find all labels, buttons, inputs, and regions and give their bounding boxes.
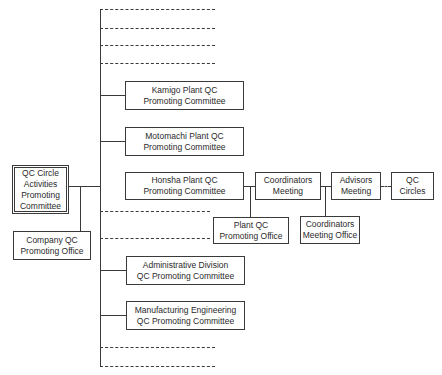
root-committee-box: QC Circle Activities Promoting Committee	[12, 165, 69, 214]
dashed-branch	[100, 238, 210, 239]
root-committee-label: QC Circle Activities Promoting Committee	[20, 168, 61, 212]
committee-label: Administrative Division QC Promoting Com…	[137, 260, 234, 282]
coordinators-to-advisors-line	[321, 186, 331, 187]
branch-line	[100, 270, 126, 271]
branch-line	[100, 315, 126, 316]
plant-office-box: Plant QC Promoting Office	[213, 217, 289, 244]
coordinators-office-connector	[325, 186, 326, 216]
staff-connector	[80, 186, 81, 231]
advisors-meeting-box: Advisors Meeting	[331, 172, 381, 200]
motomachi-committee-box: Motomachi Plant QC Promoting Committee	[125, 127, 244, 156]
dashed-branch	[100, 63, 215, 64]
admin-committee-box: Administrative Division QC Promoting Com…	[126, 256, 245, 285]
branch-line	[100, 141, 125, 142]
committee-label: Honsha Plant QC Promoting Committee	[143, 175, 225, 197]
committee-label: Kamigo Plant QC Promoting Committee	[143, 85, 225, 107]
chain-label: Coordinators Meeting	[264, 175, 313, 197]
office-label: Plant QC Promoting Office	[219, 220, 282, 242]
company-office-box: Company QC Promoting Office	[13, 231, 91, 260]
honsha-committee-box: Honsha Plant QC Promoting Committee	[125, 172, 244, 200]
plant-office-connector	[250, 186, 251, 217]
committee-label: Motomachi Plant QC Promoting Committee	[143, 131, 225, 153]
branch-line	[100, 95, 125, 96]
chain-label: Advisors Meeting	[340, 175, 373, 197]
committee-label: Manufacturing Engineering QC Promoting C…	[135, 305, 237, 327]
dashed-branch	[100, 211, 210, 212]
dashed-branch	[100, 45, 215, 46]
kamigo-committee-box: Kamigo Plant QC Promoting Committee	[125, 81, 244, 110]
dashed-branch	[100, 366, 215, 367]
root-connector	[69, 186, 100, 187]
qc-circles-box: QC Circles	[391, 172, 434, 200]
dashed-branch	[100, 347, 215, 348]
mfg-eng-committee-box: Manufacturing Engineering QC Promoting C…	[126, 301, 245, 330]
dashed-branch	[100, 28, 215, 29]
coordinators-meeting-box: Coordinators Meeting	[255, 172, 321, 200]
coordinators-office-box: Coordinators Meeting Office	[300, 216, 360, 244]
chain-label: QC Circles	[400, 175, 426, 197]
office-label: Coordinators Meeting Office	[303, 219, 358, 241]
dashed-branch	[100, 9, 215, 10]
company-office-label: Company QC Promoting Office	[20, 235, 83, 257]
advisors-to-circles-dash	[381, 186, 391, 187]
